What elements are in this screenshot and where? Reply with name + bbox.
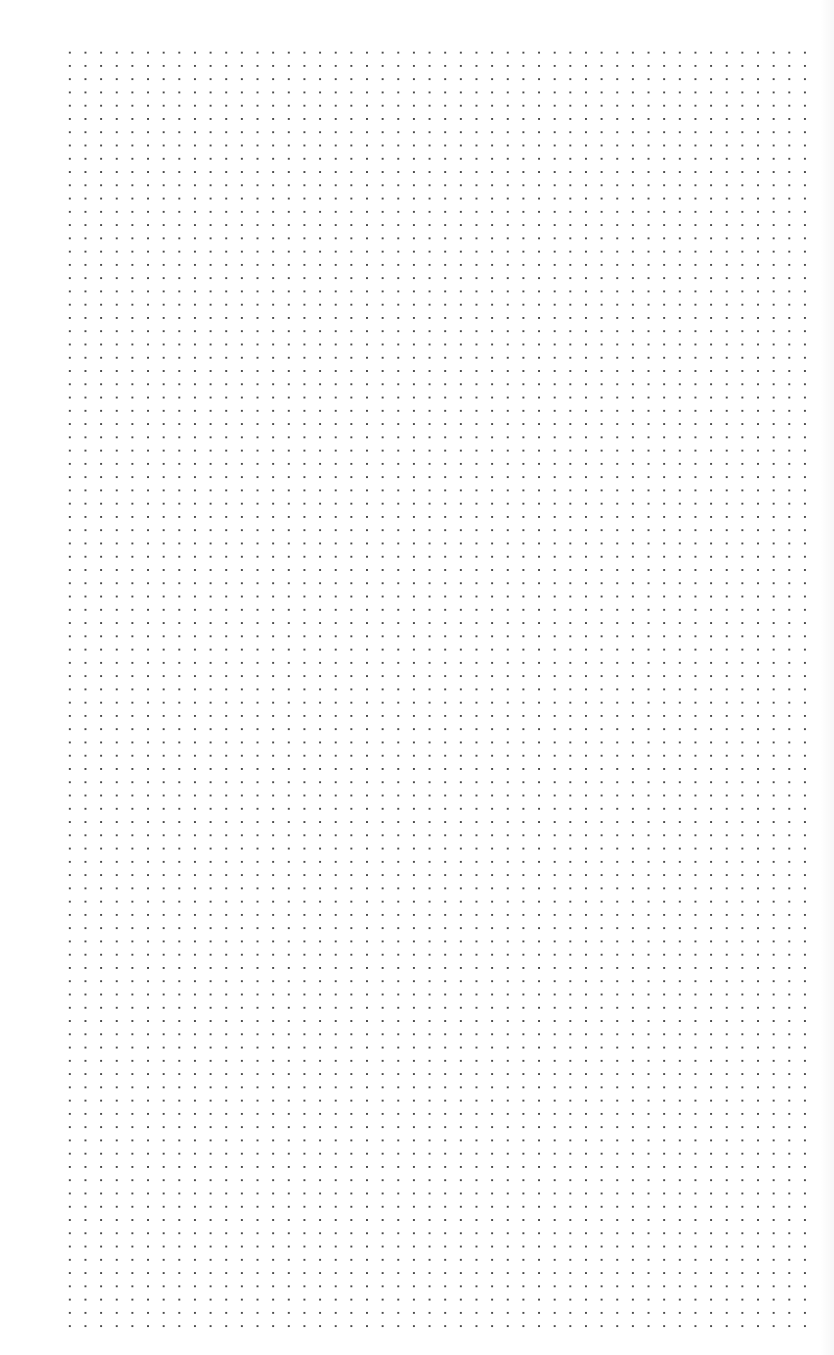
page-edge-shadow: [820, 0, 834, 1355]
dot-grid: [62, 46, 813, 1334]
dot-grid-page: [0, 0, 834, 1355]
